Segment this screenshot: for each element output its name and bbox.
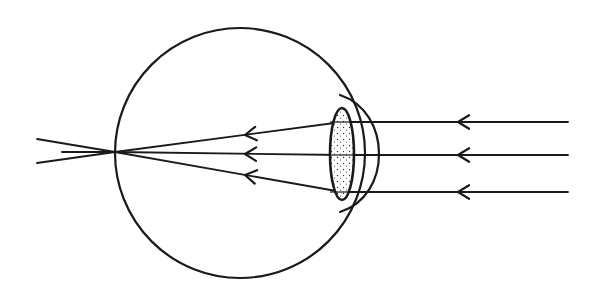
diagram-canvas [0,0,596,302]
ray-upper-refracted [115,122,342,152]
ray-upper-beyond [37,152,115,163]
ray-lower-beyond [37,139,115,152]
lens [330,108,354,200]
ray-middle-refracted [115,152,342,155]
ray-direction-arrows [245,115,469,199]
ray-lower-refracted [115,152,342,192]
